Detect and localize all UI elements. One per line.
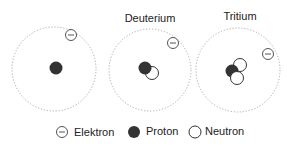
legend-neutron-label: Neutron [205, 125, 244, 137]
atom-hydrogen [12, 27, 96, 111]
proton-icon [139, 62, 152, 75]
atom-tritium: Tritium [196, 10, 280, 112]
legend-electron-label: Elektron [74, 126, 114, 138]
atom-title: Deuterium [125, 12, 176, 24]
legend-electron: Elektron [57, 126, 115, 138]
legend-proton: Proton [128, 125, 178, 138]
atom-title: Tritium [223, 10, 256, 22]
electron-icon [263, 49, 274, 60]
proton-icon [128, 126, 140, 138]
electron-icon [66, 30, 77, 41]
neutron-icon [189, 126, 201, 138]
legend-neutron: Neutron [189, 125, 244, 138]
legend: Elektron Proton Neutron [57, 125, 245, 138]
legend-proton-label: Proton [146, 125, 178, 137]
neutron-icon [231, 72, 244, 85]
atom-deuterium: Deuterium [109, 12, 191, 111]
isotope-diagram: Deuterium Tritium Elektron Proton [0, 0, 287, 149]
proton-icon [50, 62, 63, 75]
electron-icon [168, 38, 179, 49]
